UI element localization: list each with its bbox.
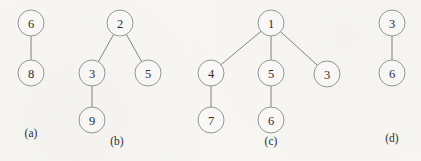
tree-edge <box>126 34 141 61</box>
tree-node: 3 <box>314 61 340 87</box>
tree-edge <box>281 32 318 66</box>
tree-node: 5 <box>258 60 284 86</box>
tree-node-value: 6 <box>28 17 34 31</box>
subfigure-label: (c) <box>265 135 278 148</box>
tree-node-value: 4 <box>208 67 215 81</box>
tree-node: 6 <box>18 10 44 36</box>
tree-edge <box>221 31 261 64</box>
tree-node-value: 8 <box>28 67 34 81</box>
tree-node: 2 <box>107 10 133 36</box>
tree-edge <box>98 34 113 61</box>
tree-node-value: 6 <box>268 114 274 128</box>
subfigure-label: (a) <box>25 127 38 140</box>
tree-node-value: 9 <box>89 114 95 128</box>
tree-diagram-canvas: 68235914537636 (a)(b)(c)(d) <box>0 0 421 161</box>
tree-node: 3 <box>79 60 105 86</box>
tree-node-value: 1 <box>268 17 274 31</box>
tree-node: 1 <box>258 10 284 36</box>
tree-node: 9 <box>79 107 105 133</box>
tree-node-value: 5 <box>145 67 151 81</box>
tree-node: 3 <box>379 10 405 36</box>
tree-node: 5 <box>135 60 161 86</box>
nodes-layer: 68235914537636 <box>18 10 405 133</box>
tree-node-value: 3 <box>324 68 330 82</box>
tree-node: 7 <box>198 107 224 133</box>
tree-node-value: 2 <box>117 17 123 31</box>
tree-node-value: 5 <box>268 67 274 81</box>
tree-node-value: 3 <box>389 17 395 31</box>
subfigure-label: (b) <box>110 135 124 148</box>
tree-node: 6 <box>258 107 284 133</box>
tree-node-value: 7 <box>208 114 214 128</box>
tree-node: 6 <box>379 60 405 86</box>
tree-node-value: 6 <box>389 67 395 81</box>
tree-node: 8 <box>18 60 44 86</box>
tree-node-value: 3 <box>89 67 95 81</box>
tree-node: 4 <box>198 60 224 86</box>
tree-figure: 68235914537636 (a)(b)(c)(d) <box>0 0 421 161</box>
subfigure-label: (d) <box>385 132 399 145</box>
